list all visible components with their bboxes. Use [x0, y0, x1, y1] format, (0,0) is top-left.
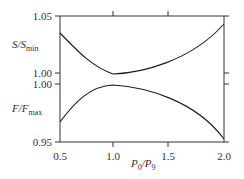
xlabel: P0/P9 [130, 157, 156, 172]
lower-ylabel: F/Fmax [11, 102, 42, 117]
xtick-1.5: 1.5 [161, 150, 175, 162]
ytick-0.95: 0.95 [33, 136, 53, 148]
ytick-1.05: 1.05 [33, 10, 53, 22]
xtick-0.5: 0.5 [53, 150, 67, 162]
upper-ylabel: S/Smin [12, 38, 39, 53]
s-over-smin-curve [60, 24, 224, 74]
xtick-2.0: 2.0 [217, 150, 231, 162]
ytick-1.00-lower: 1.00 [33, 78, 53, 90]
xtick-1.0: 1.0 [106, 150, 120, 162]
chart: 1.05 1.00 1.00 0.95 S/Smin F/Fmax 0.5 1.… [0, 0, 244, 179]
plot-frame [55, 11, 229, 147]
f-over-fmax-curve [60, 85, 224, 139]
